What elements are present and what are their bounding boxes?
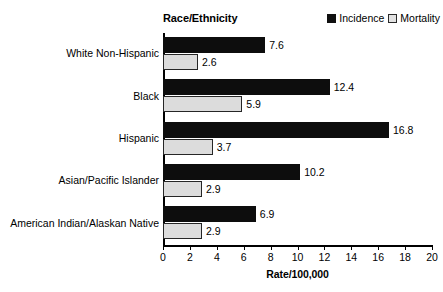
bar-incidence: [163, 164, 300, 180]
bar-value-incidence: 7.6: [269, 39, 284, 51]
bar-incidence: [163, 122, 389, 138]
category-axis-labels: White Non-HispanicBlackHispanicAsian/Pac…: [0, 33, 159, 245]
x-axis-tick: [244, 245, 245, 250]
x-axis-tick-label: 0: [160, 251, 166, 263]
bar-mortality: [163, 139, 213, 155]
category-label: White Non-Hispanic: [66, 47, 159, 59]
bar-value-mortality: 3.7: [217, 141, 232, 153]
x-axis-tick-label: 16: [372, 251, 384, 263]
legend-item-incidence: Incidence: [327, 12, 384, 24]
bar-mortality: [163, 96, 242, 112]
bar-value-incidence: 6.9: [260, 208, 275, 220]
bar-incidence: [163, 37, 265, 53]
x-axis-tick-label: 8: [268, 251, 274, 263]
bar-value-incidence: 12.4: [334, 81, 354, 93]
x-axis-tick-label: 20: [426, 251, 438, 263]
bar-value-mortality: 2.9: [206, 183, 221, 195]
x-axis-tick: [432, 245, 433, 250]
bar-value-incidence: 10.2: [304, 166, 324, 178]
bar-value-mortality: 2.6: [202, 56, 217, 68]
category-label: Asian/Pacific Islander: [59, 174, 159, 186]
bar-value-incidence: 16.8: [393, 124, 413, 136]
x-axis-tick: [324, 245, 325, 250]
bar-incidence: [163, 206, 256, 222]
x-axis-tick-label: 10: [292, 251, 304, 263]
x-axis-tick-label: 14: [345, 251, 357, 263]
x-axis-tick-label: 2: [187, 251, 193, 263]
filled-square-icon: [327, 14, 336, 23]
bar-mortality: [163, 223, 202, 239]
legend-item-mortality: Mortality: [388, 12, 440, 24]
x-axis-title: Rate/100,000: [163, 268, 432, 280]
legend-label-incidence: Incidence: [339, 12, 384, 24]
x-axis-tick: [271, 245, 272, 250]
x-axis-tick: [405, 245, 406, 250]
x-axis-tick: [217, 245, 218, 250]
bar-value-mortality: 5.9: [246, 98, 261, 110]
plot-area: 024681012141618207.62.612.45.916.83.710.…: [163, 33, 432, 245]
chart-title: Race/Ethnicity: [163, 12, 237, 24]
x-axis-tick-label: 4: [214, 251, 220, 263]
x-axis-tick: [298, 245, 299, 250]
x-axis-tick-label: 6: [241, 251, 247, 263]
x-axis-tick: [378, 245, 379, 250]
category-label: Hispanic: [119, 132, 159, 144]
open-square-icon: [388, 14, 397, 23]
bar-mortality: [163, 54, 198, 70]
x-axis-tick: [163, 245, 164, 250]
bar-chart: Race/Ethnicity Incidence Mortality White…: [0, 0, 443, 292]
category-label: Black: [133, 90, 159, 102]
x-axis-tick-label: 12: [319, 251, 331, 263]
category-label: American Indian/Alaskan Native: [10, 217, 159, 229]
x-axis-tick: [190, 245, 191, 250]
bar-mortality: [163, 181, 202, 197]
bar-incidence: [163, 79, 330, 95]
legend-label-mortality: Mortality: [400, 12, 440, 24]
x-axis-tick-label: 18: [399, 251, 411, 263]
chart-legend: Incidence Mortality: [327, 12, 440, 24]
x-axis-tick: [351, 245, 352, 250]
bar-value-mortality: 2.9: [206, 225, 221, 237]
